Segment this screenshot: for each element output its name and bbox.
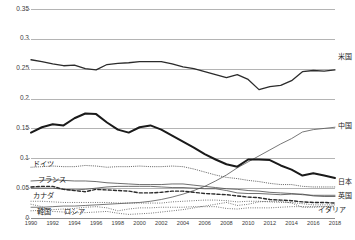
series-label-uk: 英国 bbox=[338, 192, 352, 199]
series-label-france: フランス bbox=[38, 176, 66, 183]
series-line-united-states bbox=[31, 60, 335, 90]
series-label-china: 中国 bbox=[338, 122, 352, 129]
series-lines bbox=[0, 0, 355, 240]
series-label-us: 米国 bbox=[338, 53, 352, 60]
chart-container: 00.050.10.150.20.250.30.35 1990199219941… bbox=[0, 0, 355, 240]
series-label-russia: ロシア bbox=[64, 208, 85, 215]
series-label-canada: カナダ bbox=[33, 192, 54, 199]
series-label-germany: ドイツ bbox=[33, 160, 54, 167]
series-line-china bbox=[31, 127, 335, 207]
series-line-japan bbox=[31, 114, 335, 178]
series-label-japan: 日本 bbox=[338, 178, 352, 185]
series-line-italy bbox=[31, 186, 335, 203]
series-label-italy: イタリア bbox=[318, 206, 346, 213]
series-label-korea: 韓国 bbox=[37, 208, 51, 215]
